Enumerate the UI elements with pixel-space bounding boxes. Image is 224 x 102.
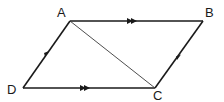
vertex-label-a: A [57,5,66,20]
edge-da [23,21,70,88]
edge-cb [155,21,203,88]
vertex-label-b: B [205,5,214,20]
double-arrow-icon [127,18,137,24]
parallelogram-diagram: A B C D [0,0,224,102]
vertex-label-d: D [7,82,16,97]
double-arrow-icon [80,85,90,91]
vertex-label-c: C [153,88,162,102]
diagonal-ac [70,21,155,88]
